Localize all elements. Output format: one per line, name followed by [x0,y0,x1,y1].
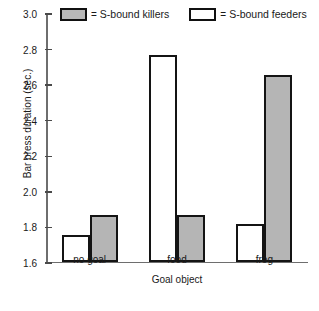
bar-food-s-bound-feeders [149,55,177,261]
y-tick-label: 2.2 [23,151,37,162]
x-tick-mark [118,257,120,263]
y-tick-mark [45,262,52,264]
y-tick-label: 2.4 [23,115,37,126]
y-tick-mark [45,227,52,229]
y-tick-label: 3.0 [23,9,37,20]
y-tick-mark [45,120,52,122]
y-tick-label: 1.8 [23,222,37,233]
y-tick-mark [45,49,52,51]
y-tick-label: 2.0 [23,186,37,197]
x-category-label-no-goal: no goal [73,254,106,265]
plot-area: 1.61.82.02.22.42.62.83.0 [46,14,308,263]
x-category-label-frog: frog [256,254,273,265]
bar-chart: = S-bound killers = S-bound feeders Bar … [0,0,319,311]
y-tick-mark [45,84,52,86]
y-tick-mark [45,191,52,193]
y-tick-mark [45,13,52,15]
bar-frog-s-bound-killers [264,75,292,262]
y-tick-label: 2.8 [23,44,37,55]
y-tick-label: 2.6 [23,80,37,91]
x-axis-label: Goal object [46,274,308,285]
y-tick-label: 1.6 [23,258,37,269]
y-tick-mark [45,156,52,158]
x-category-label-food: food [167,254,186,265]
x-tick-mark [205,257,207,263]
x-tick-mark [292,257,294,263]
y-axis-line [46,14,48,263]
